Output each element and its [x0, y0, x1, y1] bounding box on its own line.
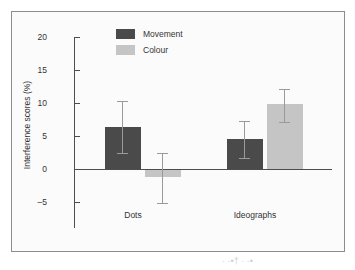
legend-swatch-colour-icon: [116, 45, 135, 55]
errorbar-dots-movement-cap-low: [117, 153, 128, 154]
caption-fragment: · ·•† · ·•: [222, 256, 253, 268]
y-tick-label-20: 20: [7, 33, 47, 42]
errorbar-dots-movement-line: [122, 101, 123, 153]
errorbar-ideographs-colour-cap-low: [279, 122, 290, 123]
plot-area: 20 15 10 5 0 –5 Interference scores (%) …: [12, 12, 344, 251]
y-tick-minus5: [75, 202, 80, 203]
errorbar-ideographs-colour-cap-high: [279, 89, 290, 90]
y-tick-10: [75, 103, 80, 104]
group-label-ideographs: Ideographs: [200, 210, 310, 220]
legend: Movement Colour: [116, 28, 183, 60]
group-label-dots: Dots: [78, 210, 188, 220]
legend-swatch-movement-icon: [116, 29, 135, 39]
legend-label-movement: Movement: [143, 29, 183, 39]
errorbar-ideographs-movement-cap-high: [239, 121, 250, 122]
errorbar-dots-colour-cap-low: [157, 203, 168, 204]
y-tick-0: [75, 169, 80, 170]
errorbar-dots-colour-cap-high: [157, 153, 168, 154]
y-tick-20: [75, 37, 80, 38]
errorbar-ideographs-colour-line: [284, 89, 285, 122]
y-tick-5: [75, 136, 80, 137]
errorbar-dots-movement-cap-high: [117, 101, 128, 102]
y-tick-15: [75, 70, 80, 71]
figure-frame: 20 15 10 5 0 –5 Interference scores (%) …: [11, 11, 345, 252]
bar-ideographs-colour: [267, 104, 303, 169]
legend-item-movement: Movement: [116, 28, 183, 39]
errorbar-ideographs-movement-cap-low: [239, 158, 250, 159]
legend-label-colour: Colour: [143, 45, 168, 55]
bar-dots-movement: [105, 127, 141, 169]
bar-dots-colour: [145, 170, 181, 177]
errorbar-dots-colour-line: [162, 153, 163, 203]
legend-item-colour: Colour: [116, 44, 183, 55]
bar-ideographs-movement: [227, 139, 263, 169]
y-axis-line: [74, 37, 75, 228]
zero-baseline: [74, 169, 332, 170]
y-axis-title: Interference scores (%): [22, 50, 32, 200]
errorbar-ideographs-movement-line: [244, 121, 245, 158]
